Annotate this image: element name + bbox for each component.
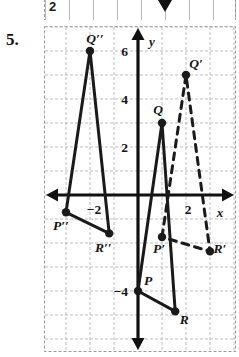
down-triangle-icon [158,0,172,12]
vertex-label: R′ [213,241,227,256]
y-axis-label: y [147,34,155,49]
vertex-label: P′ [153,241,165,256]
vertex-point [134,287,142,295]
vertex-label: Q [153,102,163,117]
y-tick-label: 6 [121,44,128,59]
vertex-label: R [179,312,189,327]
vertex-label: P [144,273,153,288]
strip-grid-background [44,0,236,20]
coordinate-graph: −22642−4 PQRP′Q′R′P′′Q′′R′′ xy [44,26,236,352]
x-tick-label: 2 [185,202,192,217]
vertex-point [158,233,166,241]
previous-exercise-strip: 2 [0,0,239,20]
vertex-label: R′′ [94,240,112,255]
vertex-point [86,47,94,55]
vertex-label: Q′′ [86,31,104,46]
vertex-point [105,229,113,237]
grid-layer [45,27,236,352]
y-tick-label: 2 [121,140,128,155]
x-tick-label: −2 [87,202,102,217]
strip-tick-label: 2 [49,0,56,14]
y-tick-label: −4 [114,284,129,299]
graph-svg: −22642−4 PQRP′Q′R′P′′Q′′R′′ xy [44,26,236,352]
vertex-label: Q′ [189,56,203,71]
vertex-label: P′′ [53,218,69,233]
vertex-point [62,208,70,216]
problem-number: 5. [6,30,19,50]
x-axis-label: x [216,205,224,220]
vertex-point [171,307,179,315]
y-tick-label: 4 [121,92,128,107]
vertex-point [158,119,166,127]
vertex-point [182,71,190,79]
